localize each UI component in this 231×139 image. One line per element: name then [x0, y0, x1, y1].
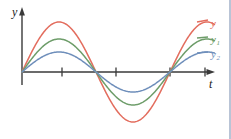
- axes-group: [19, 7, 215, 85]
- figure-right-border: [229, 0, 231, 139]
- legend-label-y: y: [211, 18, 216, 29]
- plot-canvas: [0, 0, 231, 139]
- t-axis-label: t: [209, 78, 212, 90]
- leader-line-y2: [197, 52, 208, 53]
- y-axis-label: y: [12, 6, 17, 18]
- legend-label-y1: y1: [211, 34, 219, 45]
- legend-label-y-text: y: [211, 17, 216, 29]
- y-axis-arrowhead: [19, 7, 25, 16]
- sine-wave-figure: y t y y1 y2: [0, 0, 231, 139]
- t-axis-arrowhead: [207, 69, 216, 75]
- legend-label-y2: y2: [211, 49, 219, 60]
- legend-label-y2-subscript: 2: [216, 54, 220, 62]
- legend-label-y1-subscript: 1: [216, 39, 220, 47]
- leader-line-y1: [197, 37, 208, 38]
